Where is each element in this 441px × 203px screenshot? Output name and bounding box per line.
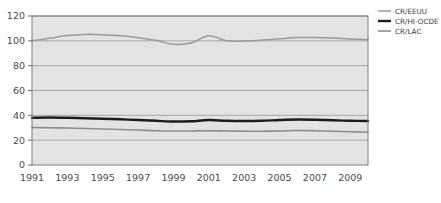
y-axis-tick-label: 20: [13, 135, 25, 146]
y-axis-tick-label: 60: [13, 85, 25, 96]
legend-label-cr-lac: CR/LAC: [395, 27, 421, 36]
chart-canvas: 020406080100120 199119931995199719992001…: [0, 0, 441, 203]
x-axis-tick-label: 2005: [267, 172, 291, 183]
y-axis-tick-label: 80: [13, 60, 25, 71]
x-axis-tick-label: 2009: [338, 172, 362, 183]
x-axis-tick-label: 1993: [55, 172, 79, 183]
x-axis-tick-label: 2007: [303, 172, 327, 183]
y-axis-tick-label: 120: [7, 10, 25, 21]
legend-label-cr-eeuu: CR/EEUU: [395, 7, 427, 16]
x-axis-tick-label: 1997: [126, 172, 150, 183]
x-axis-tick-label: 2003: [232, 172, 256, 183]
y-axis-tick-label: 0: [19, 159, 25, 170]
line-chart: 020406080100120 199119931995199719992001…: [0, 0, 441, 203]
x-axis-tick-label: 1995: [91, 172, 115, 183]
x-axis-tick-label: 1991: [20, 172, 44, 183]
y-axis-tick-label: 100: [7, 35, 25, 46]
legend-label-cr-hi-ocde: CR/HI-OCDE: [395, 17, 439, 26]
y-axis-tick-label: 40: [13, 110, 25, 121]
x-axis-tick-label: 1999: [161, 172, 185, 183]
x-axis-tick-label: 2001: [197, 172, 221, 183]
